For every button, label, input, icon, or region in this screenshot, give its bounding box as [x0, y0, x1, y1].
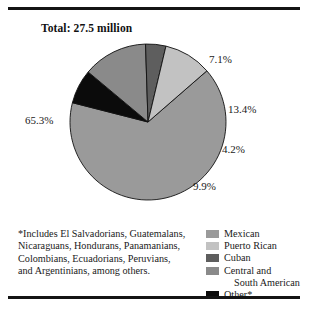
footnote-line-1: *Includes El Salvadorians, Guatemalans,: [18, 228, 198, 240]
footnote-line-4: and Argentinians, among others.: [18, 265, 198, 277]
legend-item-puerto-rican: Puerto Rican: [206, 240, 312, 252]
top-divider-rule: [8, 7, 300, 10]
slice-label-puerto-rican: 9.9%: [193, 180, 216, 192]
slice-label-mexican: 65.3%: [25, 114, 53, 126]
legend-item-cuban: Cuban: [206, 252, 312, 264]
chart-title: Total: 27.5 million: [41, 22, 132, 34]
legend-label-cuban: Cuban: [224, 252, 251, 264]
legend-label-mexican: Mexican: [224, 228, 260, 240]
legend-item-central-south-american: Central and: [206, 265, 312, 277]
legend-swatch-puerto-rican: [206, 242, 219, 250]
pie-slices: [70, 44, 226, 200]
pie-slice-cuban: [146, 44, 166, 122]
legend-swatch-central-south-american: [206, 267, 219, 275]
footnote-line-3: Colombians, Ecuadorians, Peruvians,: [18, 253, 198, 265]
pie-slice-other: [72, 72, 148, 122]
legend-label-central-south-american-line2: South American: [206, 277, 312, 289]
pie-chart-figure: Total: 27.5 million 65.3% 7.1% 13.4% 4.2…: [0, 0, 316, 310]
slice-label-central-south-american: 13.4%: [228, 103, 256, 115]
legend-label-central-south-american: Central and: [224, 265, 271, 277]
footnote: *Includes El Salvadorians, Guatemalans, …: [18, 228, 198, 278]
legend-swatch-cuban: [206, 254, 219, 262]
legend: Mexican Puerto Rican Cuban Central and S…: [206, 228, 312, 301]
legend-label-puerto-rican: Puerto Rican: [224, 240, 277, 252]
footnote-line-2: Nicaraguans, Hondurans, Panamanians,: [18, 240, 198, 252]
legend-swatch-mexican: [206, 230, 219, 238]
bottom-divider-rule: [8, 296, 300, 299]
legend-item-mexican: Mexican: [206, 228, 312, 240]
slice-label-cuban: 4.2%: [222, 143, 245, 155]
pie-slice-puerto-rican: [148, 46, 207, 122]
pie-slice-central-and-south-american: [88, 44, 148, 122]
slice-label-other: 7.1%: [209, 53, 232, 65]
